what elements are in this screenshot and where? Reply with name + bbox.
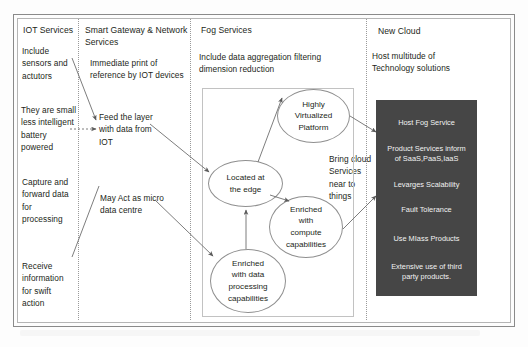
cloud-feature-extensive-third-party: Extensive use of third party products. bbox=[376, 262, 477, 283]
gateway-note-micro-data-centre: May Act as micro data centre bbox=[100, 192, 164, 217]
new-cloud-feature-panel: Host Fog Service Product Services inform… bbox=[376, 100, 477, 296]
iot-note-receive-information: Receive information for swift action bbox=[22, 260, 64, 310]
cloud-feature-fault-tolerance: Fault Tolerance bbox=[376, 205, 477, 215]
fog-node-highly-virtualized-platform[interactable]: Highly Virtualized Platform bbox=[277, 89, 350, 143]
diagram-canvas: IOT Services Include sensors and actutor… bbox=[0, 0, 528, 347]
fog-node-located-at-the-edge[interactable]: Located at the edge bbox=[208, 160, 283, 207]
gateway-note-immediate-print: Immediate print of reference by IOT devi… bbox=[90, 57, 184, 82]
cloud-feature-product-services: Product Services inform of SaaS,PaaS,Iaa… bbox=[376, 144, 477, 165]
iot-note-capture-forward: Capture and forward data for processing bbox=[22, 176, 69, 226]
column-header-fog-services: Fog Services bbox=[201, 24, 252, 36]
cloud-note-host-multitude: Host multitude of Technology solutions bbox=[372, 50, 450, 75]
cloud-feature-levarges-scalability: Levarges Scalability bbox=[376, 180, 477, 190]
cloud-feature-host-fog-service: Host Fog Service bbox=[376, 118, 477, 128]
column-header-iot-services: IOT Services bbox=[23, 24, 73, 36]
column-separator-1 bbox=[78, 19, 79, 320]
cloud-feature-use-mlass-products: Use MIass Products bbox=[376, 234, 477, 244]
column-separator-2 bbox=[190, 19, 191, 320]
background-ghost-text bbox=[20, 330, 480, 336]
fog-note-aggregation: Include data aggregation filtering dimen… bbox=[199, 51, 321, 76]
fog-node-enriched-with-compute-capabilities[interactable]: Enriched with compute capabilities bbox=[269, 196, 343, 258]
column-header-smart-gateway: Smart Gateway & Network Services bbox=[85, 24, 187, 49]
fog-node-enriched-with-data-processing-capabilities[interactable]: Enriched with data processing capabiliti… bbox=[210, 249, 286, 313]
iot-note-sensors: Include sensors and actutors bbox=[22, 45, 68, 82]
column-header-new-cloud: New Cloud bbox=[378, 25, 420, 37]
gateway-note-feed-the-layer: Feed the layer with data from IOT bbox=[99, 111, 153, 148]
iot-note-small-battery: They are small less intelligent battery … bbox=[21, 104, 76, 154]
